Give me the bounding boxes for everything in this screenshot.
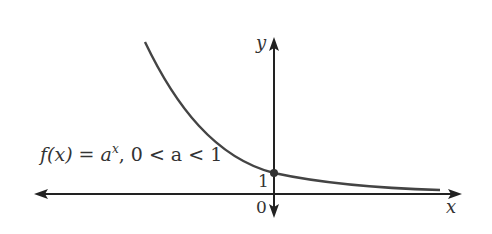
function-label-prefix: f(x) = a [40, 143, 112, 165]
x-axis-label: x [446, 198, 456, 216]
graph-canvas [0, 0, 492, 234]
function-label-suffix: , 0 < a < 1 [119, 143, 223, 165]
function-label-exponent: x [112, 142, 119, 156]
origin-tick-label: 0 [256, 199, 267, 216]
y-intercept-point [270, 169, 278, 177]
function-label: f(x) = ax, 0 < a < 1 [40, 143, 222, 164]
exponential-decay-graph: f(x) = ax, 0 < a < 1 y x 1 0 [0, 0, 492, 234]
y-axis-label: y [256, 34, 266, 52]
y-intercept-tick-label: 1 [258, 173, 269, 190]
x-axis [34, 189, 462, 199]
exponential-curve [145, 42, 440, 190]
y-axis [269, 37, 279, 218]
